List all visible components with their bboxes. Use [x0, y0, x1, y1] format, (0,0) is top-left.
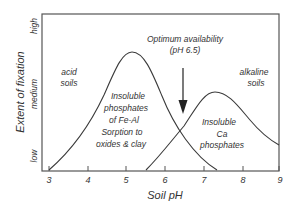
- y-label-high: high: [29, 18, 39, 34]
- x-ticks: [49, 166, 279, 171]
- x-tick-6: 6: [162, 175, 167, 185]
- x-tick-9: 9: [277, 175, 282, 185]
- fe-al-label-line3: of Fe-Al: [109, 115, 140, 125]
- y-axis-title: Extent of fixation: [14, 51, 26, 132]
- optimum-arrow-icon: [179, 68, 188, 114]
- curve-ca: [146, 92, 279, 170]
- fe-al-label-line2: phosphates: [103, 103, 149, 113]
- y-label-low: low: [29, 149, 39, 163]
- x-tick-8: 8: [240, 175, 245, 185]
- x-tick-3: 3: [46, 175, 51, 185]
- ca-label-line1: Insoluble: [202, 117, 236, 127]
- ca-label-line3: phosphates: [199, 140, 245, 150]
- alkaline-soils-line2: soils: [247, 78, 265, 88]
- fixation-chart: 3 4 5 6 7 8 9 Soil pH Extent of fixation…: [0, 0, 291, 204]
- fe-al-label-line5: oxides & clay: [96, 139, 147, 149]
- fe-al-label-line1: Insoluble: [111, 91, 145, 101]
- optimum-label-line1: Optimum availability: [147, 34, 224, 44]
- x-axis-title: Soil pH: [147, 189, 183, 201]
- x-tick-4: 4: [85, 175, 90, 185]
- acid-soils-line1: acid: [61, 67, 77, 77]
- ca-label-line2: Ca: [217, 129, 228, 139]
- acid-soils-line2: soils: [60, 78, 78, 88]
- alkaline-soils-line1: alkaline: [240, 67, 269, 77]
- x-tick-7: 7: [201, 175, 207, 185]
- fe-al-label-line4: Sorption to: [101, 127, 142, 137]
- x-tick-5: 5: [123, 175, 129, 185]
- y-label-medium: medium: [29, 79, 39, 109]
- optimum-label-line2: (pH 6.5): [170, 45, 201, 55]
